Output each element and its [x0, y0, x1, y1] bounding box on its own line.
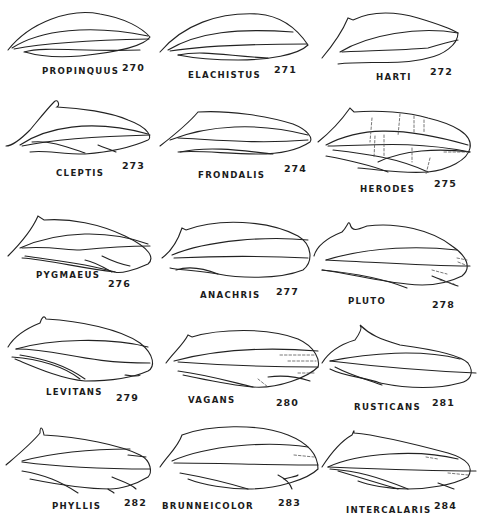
species-label: HERODES — [360, 184, 415, 194]
figure-284: INTERCALARIS 284 — [318, 405, 478, 515]
figure-279: LEVITANS 279 — [0, 305, 160, 415]
figure-number: 271 — [274, 64, 297, 75]
species-label: LEVITANS — [46, 387, 103, 397]
wing-drawing — [312, 200, 478, 310]
figure-number: 272 — [430, 66, 453, 77]
species-label: CLEPTIS — [56, 168, 104, 178]
figure-274: FRONDALIS 274 — [158, 90, 318, 200]
figure-280: VAGANS 280 — [158, 305, 318, 415]
figure-number: 277 — [276, 286, 299, 297]
figure-number: 276 — [108, 278, 131, 289]
species-label: ELACHISTUS — [188, 70, 261, 80]
figure-282: PHYLLIS 282 — [0, 405, 160, 515]
figure-273: CLEPTIS 273 — [0, 90, 160, 200]
wing-illustration-plate: PROPINQUUS 270 ELACHISTUS 271 HARTI 272 — [0, 0, 479, 515]
figure-number: 274 — [284, 163, 307, 174]
wing-drawing — [0, 0, 160, 90]
figure-277: ANACHRIS 277 — [158, 200, 318, 310]
species-label: VAGANS — [188, 395, 236, 405]
wing-drawing — [0, 200, 160, 310]
figure-number: 283 — [278, 497, 301, 508]
figure-270: PROPINQUUS 270 — [0, 0, 160, 90]
figure-278: PLUTO 278 — [312, 200, 478, 310]
wing-drawing — [318, 405, 478, 515]
figure-number: 282 — [124, 497, 147, 508]
figure-number: 284 — [434, 500, 457, 511]
figure-283: BRUNNEICOLOR 283 — [158, 405, 318, 515]
figure-272: HARTI 272 — [318, 0, 478, 90]
figure-number: 273 — [122, 160, 145, 171]
figure-number: 279 — [116, 392, 139, 403]
species-label: ANACHRIS — [200, 290, 260, 300]
species-label: PROPINQUUS — [42, 66, 119, 76]
figure-276: PYGMAEUS 276 — [0, 200, 160, 310]
wing-drawing — [0, 90, 160, 200]
species-label: INTERCALARIS — [346, 505, 431, 515]
figure-281: RUSTICANS 281 — [320, 305, 478, 415]
wing-drawing — [158, 90, 318, 200]
figure-number: 275 — [434, 178, 457, 189]
species-label: HARTI — [376, 72, 412, 82]
species-label: PYGMAEUS — [36, 270, 100, 280]
species-label: FRONDALIS — [198, 170, 265, 180]
species-label: BRUNNEICOLOR — [162, 501, 254, 511]
species-label: PHYLLIS — [52, 501, 101, 511]
figure-271: ELACHISTUS 271 — [158, 0, 318, 90]
figure-275: HERODES 275 — [318, 90, 478, 200]
figure-number: 270 — [122, 62, 145, 73]
